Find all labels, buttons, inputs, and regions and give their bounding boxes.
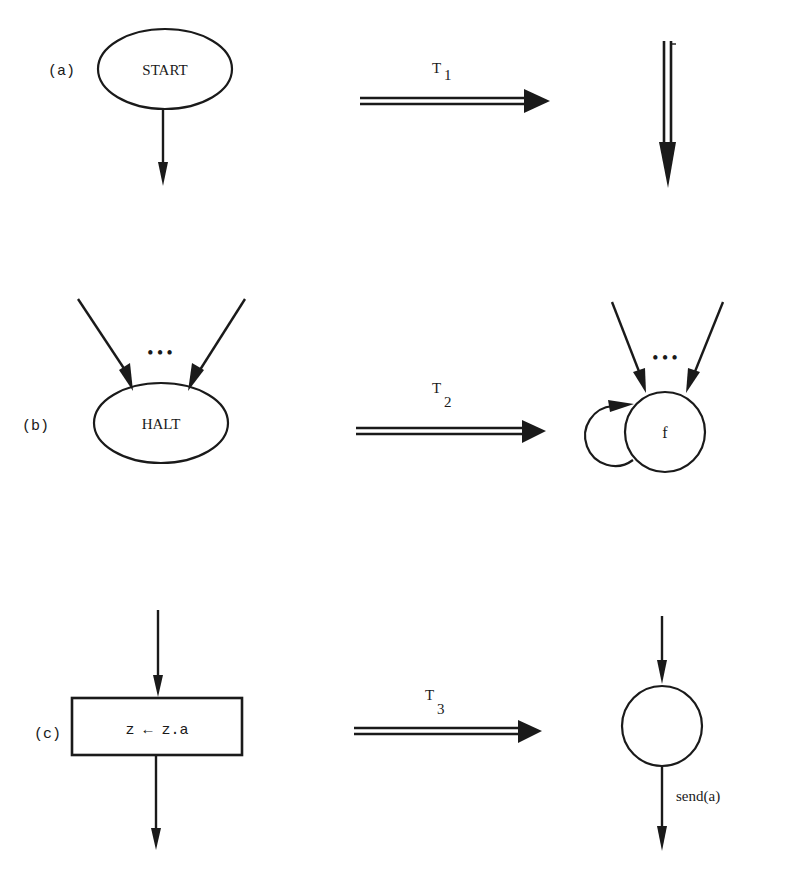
f-node-label: f — [662, 424, 668, 441]
double-arrow-right-icon — [356, 420, 546, 443]
assign-out-arrow-icon — [151, 755, 161, 850]
transform-t3-name: T — [425, 687, 434, 703]
double-arrow-right-icon — [354, 720, 542, 743]
halt-node-label: HALT — [142, 416, 181, 432]
send-edge-label: send(a) — [676, 788, 720, 805]
row-label-c: (c) — [34, 726, 61, 743]
send-node — [622, 686, 702, 766]
start-node: START — [98, 29, 232, 109]
assign-node-label: z ← z.a — [125, 722, 188, 739]
f-incoming-arrows: • • • — [612, 302, 723, 393]
assign-node: z ← z.a — [72, 698, 242, 755]
row-label-b: (b) — [22, 418, 49, 435]
transform-t3-subscript: 3 — [437, 701, 445, 717]
double-arrow-right-icon — [360, 89, 550, 113]
row-c: (c) z ← z.a T 3 — [34, 610, 720, 851]
halt-node: HALT — [94, 383, 228, 463]
transform-t2: T 2 — [356, 380, 546, 443]
transform-t1-subscript: 1 — [444, 67, 452, 83]
transform-t3: T 3 — [354, 687, 542, 743]
transform-t2-subscript: 2 — [444, 394, 452, 410]
assign-in-arrow-icon — [153, 610, 163, 697]
start-node-label: START — [142, 62, 187, 78]
row-b: (b) • • • HALT T 2 • • • — [22, 299, 723, 472]
double-line-down-arrow-icon — [659, 41, 676, 188]
transform-t2-name: T — [432, 380, 441, 396]
f-node: f — [585, 392, 705, 472]
halt-incoming-arrows: • • • — [78, 299, 245, 391]
transformation-diagram: (a) START T 1 (b) — [0, 0, 789, 887]
start-out-arrow-icon — [158, 109, 168, 186]
row-label-a: (a) — [48, 63, 75, 80]
halt-incoming-ellipsis: • • • — [148, 344, 173, 361]
row-a: (a) START T 1 — [48, 29, 676, 188]
send-in-arrow-icon — [657, 616, 667, 684]
send-out-arrow-icon — [657, 766, 667, 851]
transform-t1: T 1 — [360, 60, 550, 113]
transform-t1-name: T — [432, 60, 441, 76]
f-incoming-ellipsis: • • • — [653, 349, 678, 366]
